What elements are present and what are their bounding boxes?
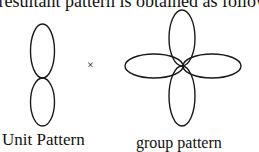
unit-pattern	[31, 24, 55, 126]
group-lobe-right	[183, 54, 241, 78]
unit-lobe-bottom	[31, 78, 55, 126]
group-pattern-label: group pattern	[136, 134, 222, 152]
group-pattern	[125, 10, 241, 126]
multiply-symbol: ×	[87, 58, 94, 73]
unit-pattern-label: Unit Pattern	[2, 130, 85, 150]
group-lobe-left	[125, 54, 183, 78]
unit-lobe-top	[31, 24, 55, 78]
